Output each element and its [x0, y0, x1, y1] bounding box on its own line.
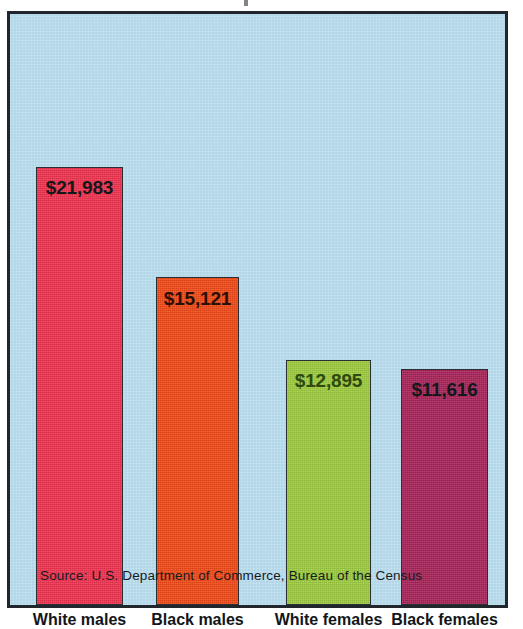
bar-group-black-males: $15,121 Black males	[156, 277, 239, 605]
bar-label-black-males: Black males	[142, 611, 253, 629]
bar-value-black-males: $15,121	[157, 288, 238, 310]
bar-value-black-females: $11,616	[402, 379, 487, 401]
bar-group-white-males: $21,983 White males	[36, 167, 123, 605]
bar-black-males[interactable]: $15,121	[156, 277, 239, 605]
cropped-title-remnant	[244, 0, 248, 6]
bar-white-males[interactable]: $21,983	[36, 167, 123, 605]
source-note: Source: U.S. Department of Commerce, Bur…	[40, 568, 422, 583]
bar-value-white-males: $21,983	[37, 177, 122, 199]
bar-value-white-females: $12,895	[287, 370, 370, 392]
bar-chart-plot-area: $21,983 White males $15,121 Black males …	[10, 14, 505, 605]
bar-label-black-females: Black females	[387, 611, 502, 629]
chart-panel: $21,983 White males $15,121 Black males …	[7, 11, 508, 608]
bar-label-white-females: White females	[272, 611, 385, 629]
bar-label-white-males: White males	[22, 611, 137, 629]
